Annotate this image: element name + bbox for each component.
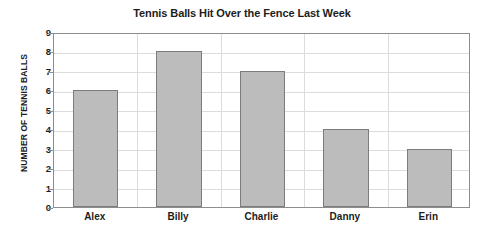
bar-billy[interactable] [156, 51, 201, 207]
gridline [54, 53, 469, 54]
bar-charlie[interactable] [240, 71, 285, 207]
y-tick-mark [48, 150, 53, 151]
bar-erin[interactable] [407, 149, 452, 207]
y-axis-title: NUMBER OF TENNIS BALLS [19, 33, 29, 193]
y-tick-mark [48, 91, 53, 92]
x-tick-label-charlie: Charlie [220, 212, 303, 222]
x-tick-label-erin: Erin [387, 212, 470, 222]
category-separator [221, 34, 222, 207]
bar-danny[interactable] [323, 129, 368, 207]
plot-area [53, 33, 470, 208]
category-separator [137, 34, 138, 207]
y-tick-mark [48, 72, 53, 73]
x-tick-label-billy: Billy [136, 212, 219, 222]
x-tick-label-danny: Danny [303, 212, 386, 222]
y-tick-mark [48, 111, 53, 112]
y-tick-mark [48, 33, 53, 34]
y-tick-mark [48, 189, 53, 190]
y-tick-mark [48, 169, 53, 170]
bar-chart-figure: Tennis Balls Hit Over the Fence Last Wee… [0, 0, 484, 236]
bar-alex[interactable] [73, 90, 118, 207]
x-tick-label-alex: Alex [53, 212, 136, 222]
y-tick-mark [48, 130, 53, 131]
y-tick-mark [48, 208, 53, 209]
category-separator [388, 34, 389, 207]
y-tick-mark [48, 52, 53, 53]
chart-title: Tennis Balls Hit Over the Fence Last Wee… [0, 7, 484, 19]
category-separator [304, 34, 305, 207]
